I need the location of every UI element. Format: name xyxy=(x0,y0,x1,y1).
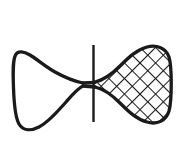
figure-drawing xyxy=(0,0,182,164)
figure-container: C. xyxy=(0,0,182,164)
